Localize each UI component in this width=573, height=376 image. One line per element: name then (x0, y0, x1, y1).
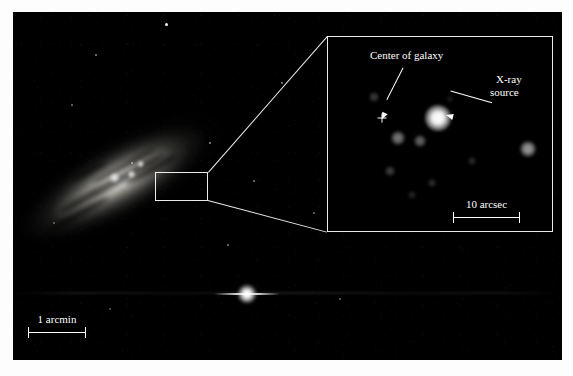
scalebar-line (28, 332, 86, 333)
scalebar-tick-left (28, 327, 29, 338)
source-d (520, 141, 536, 157)
field-star (109, 308, 111, 310)
detector-streak (13, 292, 562, 294)
label-center-of-galaxy: Center of galaxy (370, 49, 443, 62)
field-star (71, 104, 73, 106)
figure-root: Center of galaxy X-ray source 10 arcsec … (0, 0, 573, 376)
scalebar-10-arcsec-label: 10 arcsec (466, 198, 507, 210)
label-x-ray-source-line2: source (490, 86, 519, 99)
source-h (468, 157, 476, 165)
source-f (385, 166, 395, 176)
field-star (253, 180, 255, 182)
field-star (131, 162, 133, 164)
field-star (227, 244, 229, 246)
source-e (369, 92, 379, 102)
arrow-line-x-ray-source (450, 90, 492, 103)
source-b (391, 131, 405, 145)
arrow-line-center-of-galaxy (386, 67, 403, 100)
field-star (281, 82, 283, 84)
inset-selection-box[interactable] (155, 172, 208, 201)
source-i (408, 191, 416, 199)
scalebar-tick-right (85, 327, 86, 338)
field-star (209, 142, 211, 144)
label-x-ray-source-line1: X-ray (496, 73, 522, 86)
star-glow (237, 284, 257, 304)
scalebar-1-arcmin-label: 1 arcmin (38, 313, 77, 325)
scalebar-tick-right (519, 212, 520, 223)
scalebar-line (453, 217, 520, 218)
scalebar-tick-left (453, 212, 454, 223)
field-star (53, 222, 55, 224)
source-c (414, 135, 426, 147)
source-j (447, 96, 453, 102)
source-g (428, 179, 436, 187)
foreground-star (228, 275, 266, 313)
field-star (165, 23, 168, 26)
inset-panel: Center of galaxy X-ray source 10 arcsec (327, 36, 553, 232)
field-star (313, 212, 315, 214)
field-star (95, 54, 97, 56)
field-star (339, 298, 341, 300)
